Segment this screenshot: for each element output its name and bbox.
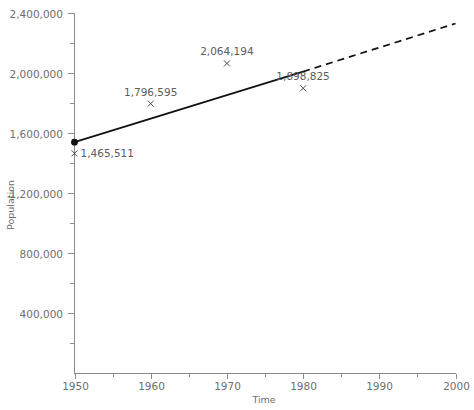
data-point-label: 1,796,595 bbox=[124, 86, 177, 98]
population-trend-chart: 400,000800,0001,200,0001,600,0002,000,00… bbox=[0, 0, 474, 410]
y-tick-label: 1,600,000 bbox=[10, 128, 63, 140]
x-axis-title: Time bbox=[251, 394, 275, 405]
x-tick-label: 1970 bbox=[214, 380, 241, 392]
y-tick-group bbox=[68, 14, 75, 344]
x-tick-label: 1990 bbox=[366, 380, 393, 392]
y-tick-label-group: 400,000800,0001,200,0001,600,0002,000,00… bbox=[10, 8, 63, 320]
origin-marker bbox=[71, 139, 78, 146]
data-point-marker bbox=[224, 60, 230, 66]
x-tick-label: 2000 bbox=[443, 380, 470, 392]
trend-line-fitted-trend bbox=[75, 72, 304, 143]
x-tick-label: 1960 bbox=[138, 380, 165, 392]
data-point-label: 1,898,825 bbox=[276, 70, 329, 82]
trend-line-extrapolated-trend bbox=[303, 24, 455, 72]
trend-line-group bbox=[75, 24, 456, 143]
y-axis-title: Population bbox=[5, 180, 16, 230]
y-tick-label: 2,400,000 bbox=[10, 8, 63, 20]
y-tick-label: 400,000 bbox=[20, 308, 63, 320]
data-point-label: 2,064,194 bbox=[200, 45, 254, 57]
x-tick-label-group: 195019601970198019902000 bbox=[62, 380, 470, 392]
y-tick-label: 1,200,000 bbox=[10, 188, 63, 200]
data-point-group bbox=[72, 60, 307, 156]
x-axis-group: 195019601970198019902000 Time bbox=[62, 374, 470, 406]
x-tick-label: 1980 bbox=[290, 380, 317, 392]
x-tick-group bbox=[76, 374, 457, 380]
data-point-marker bbox=[300, 85, 306, 91]
chart-canvas: 400,000800,0001,200,0001,600,0002,000,00… bbox=[0, 0, 474, 410]
data-point-marker bbox=[148, 101, 154, 107]
y-tick-label: 800,000 bbox=[20, 248, 63, 260]
data-point-label: 1,465,511 bbox=[81, 147, 134, 159]
y-tick-label: 2,000,000 bbox=[10, 68, 63, 80]
trend-origin-dot bbox=[71, 139, 78, 146]
y-axis-group: 400,000800,0001,200,0001,600,0002,000,00… bbox=[5, 8, 75, 374]
x-tick-label: 1950 bbox=[62, 380, 89, 392]
